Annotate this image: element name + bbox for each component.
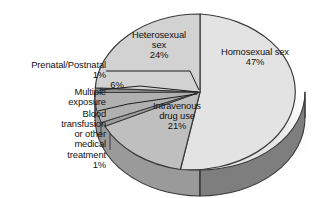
slice-label-heterosexual: Heterosexual sex 24% <box>116 30 202 60</box>
slice-label-multiple-percent: 6% <box>104 80 130 90</box>
slice-label-homosexual: Homosexual sex 47% <box>207 47 303 67</box>
slice-label-prenatal: Prenatal/Postnatal 1% <box>2 60 106 80</box>
slice-label-intravenous: Intravenous drug use 21% <box>137 101 217 131</box>
slice-label-blood: Blood transfusion or other medical treat… <box>20 109 106 170</box>
pie-chart: Homosexual sex 47% Heterosexual sex 24% … <box>0 0 322 198</box>
slice-label-multiple: Multiple exposure <box>12 87 106 107</box>
